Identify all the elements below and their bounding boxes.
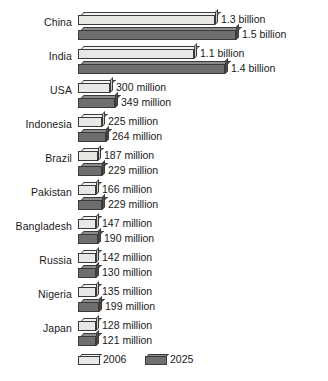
bar-face [78, 219, 96, 229]
bar-value-label: 229 million [108, 198, 158, 210]
bar-face [78, 321, 96, 331]
bar-end-cap [106, 126, 109, 142]
bar-2006 [78, 46, 197, 59]
bar-value-label: 121 million [102, 334, 152, 346]
bar-value-label: 1.3 billion [221, 13, 265, 25]
bar-2006 [78, 250, 99, 263]
bar-2006 [78, 216, 99, 229]
bar-value-label: 142 million [102, 251, 152, 263]
bar-end-cap [215, 9, 218, 25]
bar-top-facet [81, 27, 242, 30]
bar-value-label: 1.5 billion [242, 28, 286, 40]
chart-row: Japan128 million121 million [0, 318, 328, 352]
bar-face [78, 132, 106, 142]
bar-top-facet [81, 12, 221, 15]
bar-end-cap [96, 262, 99, 278]
bar-end-cap [99, 296, 102, 312]
legend-label: 2025 [170, 353, 193, 366]
bar-2006 [78, 284, 99, 297]
bar-value-label: 229 million [108, 164, 158, 176]
legend-swatch-top-facet [147, 354, 169, 356]
bar-face [78, 185, 96, 195]
bar-face [78, 30, 236, 40]
bar-value-label: 264 million [112, 130, 162, 142]
bar-top-facet [81, 46, 200, 49]
bar-end-cap [194, 43, 197, 59]
bar-value-label: 225 million [108, 115, 158, 127]
bar-end-cap [110, 77, 113, 93]
bar-2025 [78, 129, 109, 142]
legend-swatch [145, 354, 167, 365]
bar-2006 [78, 318, 99, 331]
bar-end-cap [102, 194, 105, 210]
bar-end-cap [102, 160, 105, 176]
legend-swatch-face [145, 356, 167, 365]
bar-2025 [78, 197, 105, 210]
bar-value-label: 130 million [102, 266, 152, 278]
bar-2006 [78, 182, 99, 195]
bar-value-label: 1.1 billion [200, 47, 244, 59]
bar-value-label: 190 million [104, 232, 154, 244]
bar-face [78, 336, 96, 346]
bar-value-label: 147 million [102, 217, 152, 229]
bar-2006 [78, 80, 113, 93]
bar-end-cap [96, 179, 99, 195]
bar-2025 [78, 95, 118, 108]
category-label: Nigeria [0, 288, 72, 300]
chart-row: USA300 million349 million [0, 80, 328, 114]
bar-end-cap [236, 24, 239, 40]
bar-value-label: 349 million [121, 96, 171, 108]
bar-value-label: 187 million [104, 149, 154, 161]
chart-row: China1.3 billion1.5 billion [0, 12, 328, 46]
bar-end-cap [98, 145, 101, 161]
legend-swatch-top-facet [80, 354, 102, 356]
bar-end-cap [115, 92, 118, 108]
bar-end-cap [96, 281, 99, 297]
category-label: China [0, 16, 72, 28]
bar-face [78, 98, 115, 108]
category-label: Indonesia [0, 118, 72, 130]
bar-2025 [78, 61, 228, 74]
bar-end-cap [225, 58, 228, 74]
bar-face [78, 200, 102, 210]
legend-label: 2006 [103, 353, 126, 366]
category-label: Bangladesh [0, 220, 72, 232]
bar-2006 [78, 114, 105, 127]
bar-top-facet [81, 61, 231, 64]
bar-2025 [78, 299, 102, 312]
bar-2025 [78, 27, 239, 40]
bar-face [78, 268, 96, 278]
chart-row: Pakistan166 million229 million [0, 182, 328, 216]
bar-face [78, 83, 110, 93]
bar-end-cap [102, 111, 105, 127]
bar-end-cap [96, 330, 99, 346]
chart-plot-area: China1.3 billion1.5 billionIndia1.1 bill… [0, 0, 328, 348]
bar-value-label: 135 million [102, 285, 152, 297]
bar-face [78, 166, 102, 176]
bar-2025 [78, 231, 101, 244]
bar-2025 [78, 265, 99, 278]
category-label: Brazil [0, 152, 72, 164]
category-label: USA [0, 84, 72, 96]
bar-value-label: 300 million [116, 81, 166, 93]
legend-swatch-face [78, 356, 100, 365]
bar-value-label: 199 million [105, 300, 155, 312]
bar-end-cap [96, 213, 99, 229]
category-label: India [0, 50, 72, 62]
bar-2006 [78, 12, 218, 25]
bar-end-cap [98, 228, 101, 244]
chart-row: Bangladesh147 million190 million [0, 216, 328, 250]
chart-row: Indonesia225 million264 million [0, 114, 328, 148]
bar-value-label: 1.4 billion [231, 62, 275, 74]
legend-swatch [78, 354, 100, 365]
bar-face [78, 15, 215, 25]
bar-face [78, 234, 98, 244]
category-label: Russia [0, 254, 72, 266]
chart-row: Russia142 million130 million [0, 250, 328, 284]
bar-face [78, 64, 225, 74]
bar-2025 [78, 333, 99, 346]
bar-face [78, 287, 96, 297]
bar-value-label: 166 million [102, 183, 152, 195]
bar-face [78, 49, 194, 59]
category-label: Japan [0, 322, 72, 334]
